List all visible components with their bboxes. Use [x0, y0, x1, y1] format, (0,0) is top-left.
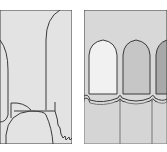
tooth-outline-panel — [0, 10, 72, 144]
shade-teeth-illustration — [84, 10, 167, 144]
shade-teeth-panel — [84, 10, 167, 144]
tooth-outline-illustration — [0, 10, 72, 144]
